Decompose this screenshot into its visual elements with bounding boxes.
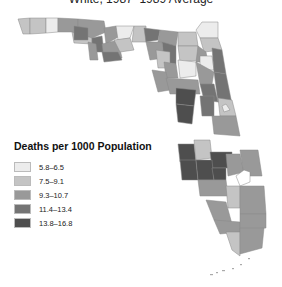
county-region: [198, 180, 228, 196]
county-region: [30, 18, 46, 34]
county-region: [180, 160, 198, 180]
legend-label: 7.5–9.1: [39, 177, 64, 186]
county-region: [196, 160, 214, 180]
legend-label: 13.8–16.8: [39, 219, 72, 228]
county-region: [196, 22, 218, 38]
legend-label: 9.3–10.7: [39, 191, 68, 200]
legend-item: 13.8–16.8: [14, 216, 152, 230]
legend-item: 11.4–13.4: [14, 202, 152, 216]
county-region: [18, 18, 30, 34]
legend-title: Deaths per 1000 Population: [14, 140, 152, 152]
legend-item: 7.5–9.1: [14, 174, 152, 188]
county-region: [178, 144, 196, 162]
county-region: [194, 140, 212, 160]
county-region: [240, 186, 266, 214]
county-region: [176, 104, 194, 124]
county-region: [240, 228, 264, 254]
legend-swatch: [14, 162, 31, 172]
county-region: [144, 28, 160, 42]
county-region: [226, 232, 240, 256]
legend-item: 5.8–6.5: [14, 160, 152, 174]
legend-swatch: [14, 204, 31, 214]
legend-swatch: [14, 176, 31, 186]
county-region: [240, 214, 266, 230]
county-region: [46, 18, 58, 33]
county-region: [212, 48, 226, 74]
map-legend: Deaths per 1000 Population 5.8–6.5 7.5–9…: [14, 140, 152, 230]
legend-label: 5.8–6.5: [39, 163, 64, 172]
county-region: [116, 26, 134, 40]
county-region: [212, 168, 226, 180]
county-region: [178, 32, 198, 46]
county-region: [74, 26, 88, 40]
county-region: [226, 186, 240, 208]
county-region: [200, 96, 214, 116]
county-region: [176, 88, 196, 106]
legend-swatch: [14, 190, 31, 200]
legend-swatch: [14, 218, 31, 228]
county-region: [102, 52, 122, 62]
legend-item: 9.3–10.7: [14, 188, 152, 202]
county-region: [212, 116, 240, 136]
legend-label: 11.4–13.4: [39, 205, 72, 214]
county-region: [178, 60, 196, 78]
florida-keys: [210, 258, 250, 275]
